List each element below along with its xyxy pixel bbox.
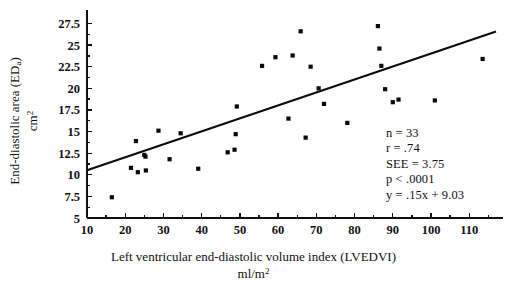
y-axis-title-main: End-diastolic area (ED bbox=[7, 66, 22, 185]
data-point bbox=[377, 46, 381, 50]
x-axis-tick-label: 90 bbox=[387, 223, 400, 237]
data-point bbox=[396, 97, 400, 101]
data-point bbox=[196, 167, 200, 171]
stat-see: SEE = 3.75 bbox=[386, 157, 464, 172]
y-axis-units-text: cm bbox=[25, 115, 40, 131]
x-axis-title-main: Left ventricular end-diastolic volume in… bbox=[111, 249, 396, 264]
data-point bbox=[179, 131, 183, 135]
x-axis-units: ml/m2 bbox=[0, 266, 507, 283]
data-point bbox=[317, 86, 321, 90]
data-point bbox=[232, 148, 236, 152]
x-axis-title: Left ventricular end-diastolic volume in… bbox=[0, 249, 507, 283]
data-point bbox=[235, 104, 239, 108]
y-axis-units-exponent: 2 bbox=[25, 111, 35, 116]
data-point bbox=[345, 121, 349, 125]
x-axis-tick-label: 110 bbox=[460, 223, 478, 237]
data-point bbox=[309, 65, 313, 69]
stat-pvalue: p < .0001 bbox=[386, 172, 464, 187]
data-point bbox=[110, 195, 114, 199]
stat-correlation: r = .74 bbox=[386, 141, 464, 156]
x-axis-tick-label: 40 bbox=[195, 223, 208, 237]
data-point bbox=[376, 24, 380, 28]
data-point bbox=[226, 150, 230, 154]
x-axis-tick-label: 60 bbox=[272, 223, 285, 237]
data-point bbox=[383, 87, 387, 91]
data-point bbox=[481, 57, 485, 61]
data-point bbox=[433, 98, 437, 102]
data-point bbox=[234, 132, 238, 136]
data-point bbox=[134, 139, 138, 143]
y-axis-tick-label: 15 bbox=[68, 125, 81, 139]
x-axis-units-exponent: 2 bbox=[265, 266, 270, 276]
y-axis-title: End-diastolic area (EDa) cm2 bbox=[6, 41, 42, 201]
x-axis-tick-label: 80 bbox=[348, 223, 361, 237]
y-axis-tick-label: 20 bbox=[68, 82, 81, 96]
x-axis-tick-label: 10 bbox=[81, 223, 94, 237]
data-point bbox=[129, 166, 133, 170]
scatter-plot-figure: 10203040506070809010011057.51012.51517.5… bbox=[0, 0, 507, 291]
statistics-annotation: n = 33 r = .74 SEE = 3.75 p < .0001 y = … bbox=[386, 126, 464, 203]
stat-equation: y = .15x + 9.03 bbox=[386, 188, 464, 203]
data-point bbox=[379, 64, 383, 68]
x-axis-units-text: ml/m bbox=[238, 266, 265, 281]
y-axis-tick-label: 10 bbox=[68, 168, 81, 182]
data-point bbox=[291, 53, 295, 57]
data-point bbox=[136, 170, 140, 174]
data-point bbox=[273, 55, 277, 59]
x-axis-tick-label: 20 bbox=[119, 223, 132, 237]
data-point bbox=[299, 29, 303, 33]
y-axis-tick-label: 22.5 bbox=[58, 60, 80, 74]
x-axis-tick-label: 50 bbox=[234, 223, 247, 237]
data-point bbox=[144, 168, 148, 172]
y-axis-tick-label: 17.5 bbox=[58, 103, 80, 117]
data-point bbox=[156, 129, 160, 133]
x-axis-tick-label: 100 bbox=[422, 223, 441, 237]
data-point bbox=[167, 157, 171, 161]
data-point bbox=[391, 100, 395, 104]
y-axis-tick-label: 7.5 bbox=[64, 190, 80, 204]
y-axis-tick-label: 12.5 bbox=[58, 147, 80, 161]
x-axis-tick-label: 30 bbox=[157, 223, 170, 237]
stat-sample-size: n = 33 bbox=[386, 126, 464, 141]
data-point bbox=[322, 102, 326, 106]
data-point bbox=[304, 136, 308, 140]
data-point bbox=[143, 155, 147, 159]
y-axis-title-close: ) bbox=[7, 57, 22, 61]
data-point bbox=[286, 116, 290, 120]
y-axis-tick-label: 5 bbox=[74, 212, 80, 226]
y-axis-units: cm2 bbox=[24, 41, 42, 201]
x-axis-tick-label: 70 bbox=[310, 223, 323, 237]
y-axis-tick-label: 27.5 bbox=[58, 17, 80, 31]
y-axis-title-subscript: a bbox=[13, 62, 23, 66]
y-axis-tick-label: 25 bbox=[68, 39, 81, 53]
data-point bbox=[260, 64, 264, 68]
